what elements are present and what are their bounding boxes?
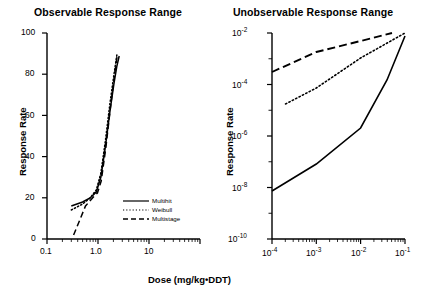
legend-label-multistage: Multistage [152, 214, 180, 223]
legend-key-dotted [123, 206, 149, 214]
ytick-label-0: 0 [31, 233, 36, 243]
xtick-label-0-1: 0.1 [40, 246, 52, 256]
ytick-label-100: 100 [21, 27, 35, 37]
legend-item-weibull: Weibull [123, 205, 180, 214]
xlabel-dose: Dose (mg/kg•DDT) [148, 274, 231, 285]
xtick-label-1-0: 1.0 [90, 246, 102, 256]
ylabel-unobservable: Response Rate [224, 107, 235, 176]
legend-key-solid [123, 197, 149, 205]
ytick-label-20: 20 [25, 192, 34, 202]
ytick-label-80: 80 [25, 68, 34, 78]
ytick-label-1e-2: 10-2 [232, 26, 247, 38]
ytick-label-1e-4: 10-4 [232, 78, 247, 90]
panel-observable: Observable Response Range [0, 0, 212, 298]
xtick-label-1e-2: 10-2 [351, 246, 366, 258]
xtick-label-1e-3: 10-3 [306, 246, 321, 258]
plot-observable [0, 0, 212, 298]
xtick-label-1e-1: 10-1 [395, 246, 410, 258]
legend-key-dashed [123, 215, 149, 223]
xtick-label-10: 10 [144, 246, 153, 256]
legend-item-multistage: Multistage [123, 214, 180, 223]
legend-observable: Multihit Weibull Multistage [123, 196, 180, 223]
legend-label-weibull: Weibull [152, 205, 172, 214]
figure: Observable Response Range [0, 0, 422, 298]
ytick-label-1e-10: 10-10 [228, 232, 247, 244]
legend-label-multihit: Multihit [152, 196, 172, 205]
legend-item-multihit: Multihit [123, 196, 180, 205]
xtick-label-1e-4: 10-4 [262, 246, 277, 258]
panel-unobservable: Unobservable Response Range [212, 0, 422, 298]
ytick-label-1e-8: 10-8 [232, 181, 247, 193]
ylabel-observable: Response Rate [17, 107, 28, 176]
